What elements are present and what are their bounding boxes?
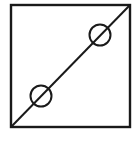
diagonal-line [11, 5, 130, 127]
diagram-canvas [0, 0, 136, 152]
